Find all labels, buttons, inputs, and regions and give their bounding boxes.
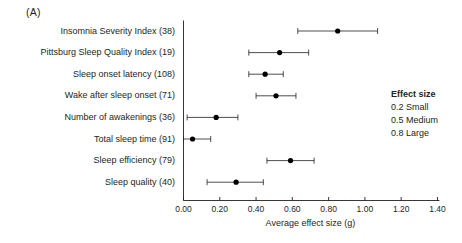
legend: Effect size 0.2 Small 0.5 Medium 0.8 Lar…	[391, 88, 438, 140]
data-point-row	[207, 179, 263, 185]
data-point-row	[298, 28, 378, 34]
x-tick-label: 0.20	[211, 205, 228, 214]
x-tick-label: 1.40	[429, 205, 446, 214]
x-tick-label: 0.40	[248, 205, 265, 214]
data-point-row	[184, 136, 211, 142]
x-tick-label: 1.20	[393, 205, 410, 214]
forest-plot: (A) Insomnia Severity Index (38)Pittsbur…	[0, 0, 462, 243]
x-tick-label: 1.00	[357, 205, 374, 214]
data-point-row	[256, 93, 296, 99]
data-point-row	[249, 71, 283, 77]
legend-title: Effect size	[391, 88, 438, 101]
legend-item-medium: 0.5 Medium	[391, 114, 438, 127]
legend-item-large: 0.8 Large	[391, 127, 438, 140]
x-tick-label: 0.80	[320, 205, 337, 214]
data-point-row	[187, 114, 238, 120]
data-point-row	[267, 158, 314, 164]
x-tick-label: 0.00	[175, 205, 192, 214]
data-point-row	[249, 50, 309, 56]
legend-item-small: 0.2 Small	[391, 101, 438, 114]
x-axis-title: Average effect size (g)	[266, 218, 356, 228]
x-tick-label: 0.60	[284, 205, 301, 214]
